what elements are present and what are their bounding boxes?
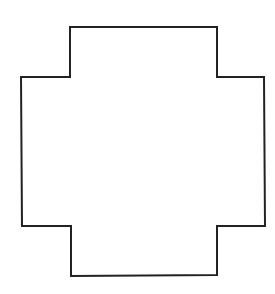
stepped-cross-outline [21,27,265,276]
cross-shape-diagram [0,0,275,294]
diagram-canvas [0,0,275,294]
